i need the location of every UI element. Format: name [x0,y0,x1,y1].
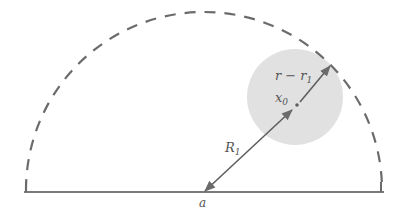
point-x0-marker [295,103,299,107]
diagram-canvas: r − r1 x0 R1 a [0,0,407,215]
label-a: a [199,196,206,210]
vector-R1-arrow [205,110,292,191]
label-R1: R1 [224,140,241,157]
shaded-circle-region [247,49,343,145]
